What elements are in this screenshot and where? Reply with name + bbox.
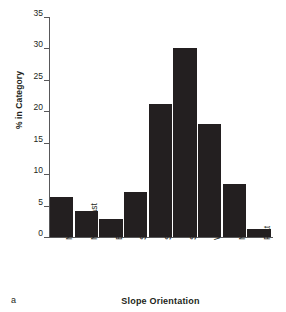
panel-letter-label: a (11, 295, 16, 305)
x-category-label: West (213, 221, 222, 240)
y-tick-label: 35 (19, 13, 43, 14)
x-category-label: Southeast (139, 202, 148, 240)
y-tick-mark (44, 237, 49, 238)
y-tick-mark (44, 17, 49, 18)
x-category-label: Northeast (90, 203, 99, 240)
x-axis-category-labels: NorthNortheastEastSoutheastSouthSouthwes… (50, 240, 273, 290)
y-tick-mark (44, 174, 49, 175)
y-tick-label: 10 (19, 170, 43, 171)
y-tick-label: 5 (19, 202, 43, 203)
y-tick-mark (44, 80, 49, 81)
x-axis-title: Slope Orientation (49, 296, 272, 306)
y-tick-label: 0 (19, 233, 43, 234)
y-tick-mark (44, 206, 49, 207)
y-tick-mark (44, 143, 49, 144)
figure-panel-a: % in Category 05101520253035 NorthNorthe… (0, 0, 286, 312)
y-tick-label: 15 (19, 139, 43, 140)
y-tick-label: 20 (19, 107, 43, 108)
y-tick-label: 30 (19, 44, 43, 45)
y-tick-label: 25 (19, 76, 43, 77)
y-tick-mark (44, 111, 49, 112)
x-category-label: East (115, 223, 124, 240)
x-category-label: Flat (263, 226, 272, 240)
y-tick-mark (44, 48, 49, 49)
x-category-label: Northwest (238, 202, 247, 240)
x-category-label: South (164, 218, 173, 240)
x-category-label: North (65, 219, 74, 240)
x-category-label: Southwest (189, 200, 198, 240)
